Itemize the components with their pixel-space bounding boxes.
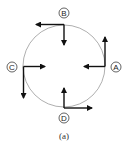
circular-motion-diagram: B A C D (a) xyxy=(0,0,128,149)
point-a-vectors xyxy=(84,37,105,67)
point-d-vectors xyxy=(64,88,92,108)
label-d: D xyxy=(59,113,69,123)
label-c-text: C xyxy=(9,63,15,72)
label-d-text: D xyxy=(61,114,67,123)
label-b: B xyxy=(59,8,69,18)
label-b-text: B xyxy=(61,9,66,18)
label-c: C xyxy=(7,62,17,72)
label-a-text: A xyxy=(113,63,119,72)
label-a: A xyxy=(111,62,121,72)
figure-caption: (a) xyxy=(59,131,69,141)
